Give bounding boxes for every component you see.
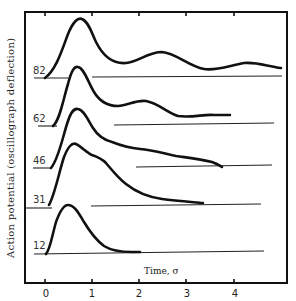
trace-62 <box>53 67 230 126</box>
tick-label-1: 1 <box>89 288 95 299</box>
baseline-82b <box>92 76 282 77</box>
y-axis-label: Action potential (oscillograph deflectio… <box>5 38 16 259</box>
baseline-12 <box>34 251 264 254</box>
series-label-82: 82 <box>33 65 46 76</box>
series-label-46: 46 <box>33 155 46 166</box>
baseline-62b <box>114 123 274 125</box>
trace-31 <box>49 144 203 205</box>
chart: 0 1 2 3 4 Time, σ Action potential (osci… <box>0 0 296 301</box>
x-axis-label: Time, σ <box>144 266 179 276</box>
tick-label-2: 2 <box>136 288 142 299</box>
series-label-62: 62 <box>33 113 46 124</box>
series-label-31: 31 <box>33 194 46 205</box>
trace-12 <box>46 205 140 254</box>
tick-label-0: 0 <box>43 288 49 299</box>
baseline-31b <box>91 204 261 206</box>
tick-label-4: 4 <box>232 288 238 299</box>
x-tick-labels: 0 1 2 3 4 <box>43 288 238 299</box>
tick-label-3: 3 <box>184 288 190 299</box>
x-ticks <box>45 12 234 283</box>
trace-46 <box>51 109 222 168</box>
baseline-46b <box>136 165 272 167</box>
series-label-12: 12 <box>33 240 46 251</box>
